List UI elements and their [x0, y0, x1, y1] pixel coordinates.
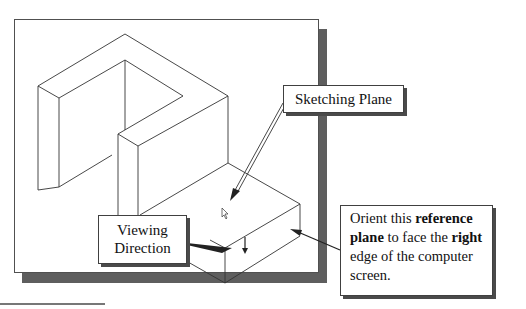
orient-text-1: Orient this	[350, 210, 415, 226]
back-inner-outline	[38, 60, 183, 134]
orient-text-4: screen.	[350, 267, 391, 283]
sketching-plane-callout: Sketching Plane	[283, 85, 404, 113]
mouse-pointer-icon	[222, 208, 228, 219]
orient-text-2: to face the	[384, 229, 452, 245]
orient-reference-plane-callout: Orient this reference plane to face the …	[340, 205, 493, 296]
sketching-plane-leader	[234, 103, 286, 193]
orient-arrow-head	[290, 229, 302, 236]
orient-bold-reference: reference	[415, 210, 472, 226]
front-block-top	[118, 96, 228, 146]
orient-bold-right: right	[451, 229, 482, 245]
left-base	[38, 155, 112, 190]
sketching-plane-label: Sketching Plane	[295, 91, 392, 107]
orient-text-3: edge of the computer	[350, 248, 473, 264]
down-arrow-icon	[242, 237, 248, 254]
orient-bold-plane: plane	[350, 229, 384, 245]
step-bottom-edge	[225, 236, 300, 283]
footer-rule	[0, 303, 105, 305]
viewing-direction-callout: Viewing Direction	[98, 215, 187, 264]
diagram-stage: Sketching Plane Viewing Direction Orient…	[0, 0, 526, 309]
back-top-outline	[38, 34, 228, 150]
viewing-direction-line1: Viewing	[99, 221, 186, 239]
viewing-direction-line2: Direction	[99, 239, 186, 257]
